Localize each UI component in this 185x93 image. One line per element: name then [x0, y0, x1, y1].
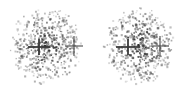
data-point — [58, 11, 59, 12]
data-point — [142, 26, 144, 28]
data-point — [142, 44, 144, 46]
data-point — [123, 60, 125, 62]
data-point — [141, 30, 143, 32]
data-point — [35, 20, 37, 22]
data-point — [43, 42, 45, 44]
data-point — [137, 38, 138, 39]
data-point — [37, 43, 38, 44]
data-point — [169, 32, 171, 34]
data-point — [42, 20, 44, 22]
data-point — [168, 50, 170, 52]
data-point — [129, 23, 131, 25]
data-point — [118, 48, 119, 49]
data-point — [17, 20, 19, 22]
data-point — [114, 44, 116, 46]
data-point — [131, 13, 132, 14]
data-point — [135, 31, 136, 32]
data-point — [57, 26, 58, 27]
data-point — [136, 48, 137, 49]
data-point — [31, 71, 33, 73]
data-point — [154, 50, 156, 52]
data-point — [16, 42, 18, 44]
data-point — [49, 54, 51, 56]
data-point — [26, 45, 28, 47]
data-point — [162, 24, 164, 26]
data-point — [129, 35, 131, 37]
data-point — [117, 43, 118, 44]
data-point — [32, 51, 34, 53]
data-point — [72, 51, 74, 53]
data-point — [45, 57, 47, 59]
data-point — [127, 37, 129, 39]
data-point — [41, 62, 42, 63]
data-point — [162, 36, 164, 38]
data-point — [62, 40, 64, 42]
data-point — [139, 63, 141, 65]
data-point — [150, 16, 152, 18]
data-point — [56, 49, 58, 51]
data-point — [166, 66, 168, 68]
data-point — [35, 56, 36, 57]
data-point — [27, 53, 29, 55]
data-point — [153, 56, 155, 58]
data-point — [62, 67, 64, 69]
data-point — [59, 36, 61, 38]
data-point — [120, 63, 122, 65]
data-point — [53, 15, 54, 16]
data-point — [121, 52, 123, 54]
data-point — [23, 16, 25, 18]
data-point — [157, 24, 159, 26]
data-point — [134, 79, 136, 81]
data-point — [140, 56, 141, 57]
data-point — [33, 34, 34, 35]
data-point — [133, 17, 135, 19]
data-point — [28, 40, 29, 41]
data-point — [147, 79, 149, 81]
data-point — [62, 17, 64, 19]
data-point — [10, 50, 11, 51]
data-point — [103, 46, 105, 48]
data-point — [135, 48, 137, 50]
data-point — [25, 65, 27, 67]
data-point — [113, 41, 114, 42]
data-point — [43, 56, 45, 58]
data-point — [108, 62, 110, 64]
data-point — [136, 12, 137, 13]
data-point — [35, 58, 37, 60]
data-point — [164, 57, 165, 58]
data-point — [51, 53, 53, 55]
data-point — [111, 38, 113, 40]
data-point — [58, 44, 59, 45]
data-point — [66, 52, 68, 54]
data-point — [155, 36, 157, 38]
data-point — [55, 71, 56, 72]
data-point — [57, 61, 59, 63]
data-point — [132, 11, 134, 13]
data-point — [139, 28, 141, 30]
data-point — [118, 51, 120, 53]
data-point — [130, 66, 132, 68]
data-point — [109, 54, 110, 55]
data-point — [64, 55, 66, 57]
right-scatter-panel — [93, 0, 185, 93]
data-point — [34, 81, 36, 83]
data-point — [127, 65, 129, 67]
data-point — [132, 73, 134, 75]
data-point — [24, 38, 26, 40]
data-point — [151, 49, 152, 50]
data-point — [132, 25, 133, 26]
data-point — [47, 54, 48, 55]
data-point — [116, 67, 118, 69]
data-point — [51, 41, 53, 43]
data-point — [38, 74, 40, 76]
data-point — [158, 63, 159, 64]
data-point — [149, 18, 151, 20]
data-point — [130, 60, 132, 62]
data-point — [14, 39, 15, 40]
data-point — [145, 71, 147, 73]
data-point — [155, 31, 156, 32]
data-point — [42, 54, 43, 55]
data-point — [30, 34, 32, 36]
data-point — [17, 65, 19, 67]
data-point — [55, 47, 57, 49]
